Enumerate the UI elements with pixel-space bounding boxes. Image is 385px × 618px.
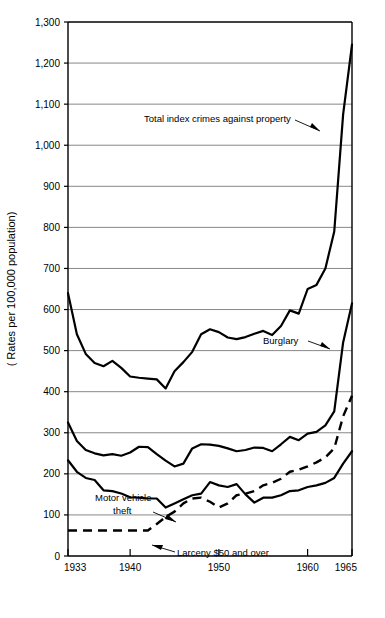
y-tick-label-100: 100 [43,509,60,520]
annotation-motor-vehicle-label-line2: theft [113,505,132,516]
y-tick-label-900: 900 [43,181,60,192]
annotation-total-index-label: Total index crimes against property [144,113,291,124]
y-tick-label-1000: 1,000 [35,140,60,151]
y-tick-label-0: 0 [54,551,60,562]
x-tick-label-1950: 1950 [208,562,231,573]
annotation-motor-vehicle-label-line1: Motor vehicle [95,492,152,503]
y-tick-label-800: 800 [43,222,60,233]
annotation-burglary-label: Burglary [263,335,299,346]
y-tick-label-1300: 1,300 [35,17,60,28]
y-tick-label-200: 200 [43,468,60,479]
x-tick-label-1960: 1960 [297,562,320,573]
x-tick-label-1933: 1933 [64,562,87,573]
y-axis-title: ( Rates per 100,000 population) [5,212,17,367]
y-tick-label-1200: 1,200 [35,58,60,69]
chart-svg: 01002003004005006007008009001,0001,1001,… [0,0,385,618]
y-tick-label-600: 600 [43,304,60,315]
x-tick-label-1940: 1940 [119,562,142,573]
y-tick-label-500: 500 [43,345,60,356]
annotation-larceny-label: Larceny $50 and over [177,547,269,558]
y-tick-label-700: 700 [43,263,60,274]
crime-rate-line-chart: 01002003004005006007008009001,0001,1001,… [0,0,385,618]
y-tick-label-400: 400 [43,386,60,397]
x-tick-label-1965: 1965 [335,562,358,573]
y-tick-label-300: 300 [43,427,60,438]
y-tick-label-1100: 1,100 [35,99,60,110]
